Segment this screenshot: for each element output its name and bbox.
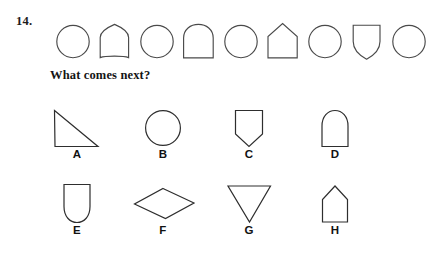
u-shape-icon	[34, 180, 120, 224]
sequence-shape-circle-3	[139, 20, 179, 62]
sequence-shape-round-arch-4	[181, 20, 221, 62]
sequence-shape-shield-8	[349, 20, 389, 62]
option-h[interactable]: H	[292, 180, 378, 242]
sequence-shape-circle-7	[307, 20, 347, 62]
option-e-label: E	[34, 224, 120, 236]
question-prompt: What comes next?	[50, 68, 150, 83]
option-f-label: F	[120, 224, 206, 236]
question-number: 14.	[16, 14, 32, 29]
option-e[interactable]: E	[34, 180, 120, 242]
sequence-shape-house-pentagon-6	[265, 20, 305, 62]
sequence-shape-pointed-arch-2	[97, 20, 137, 62]
circle-icon	[120, 104, 206, 148]
option-f[interactable]: F	[120, 180, 206, 242]
option-b[interactable]: B	[120, 104, 206, 166]
inverted-triangle-icon	[206, 180, 292, 224]
option-d[interactable]: D	[292, 104, 378, 166]
option-b-label: B	[120, 148, 206, 160]
option-a[interactable]: A	[34, 104, 120, 166]
option-c[interactable]: C	[206, 104, 292, 166]
shield-icon	[206, 104, 292, 148]
option-g[interactable]: G	[206, 180, 292, 242]
sequence-shape-circle-9	[391, 20, 431, 62]
round-arch-icon	[292, 104, 378, 148]
sequence-shape-circle-1	[55, 20, 95, 62]
sequence-shape-circle-5	[223, 20, 263, 62]
option-c-label: C	[206, 148, 292, 160]
house-pentagon-icon	[292, 180, 378, 224]
option-h-label: H	[292, 224, 378, 236]
option-a-label: A	[34, 148, 120, 160]
option-d-label: D	[292, 148, 378, 160]
answer-options: A B C D	[0, 104, 440, 256]
option-g-label: G	[206, 224, 292, 236]
triangle-icon	[34, 104, 120, 148]
pattern-sequence	[55, 20, 433, 62]
worksheet-page: 14.	[0, 0, 440, 265]
rhombus-icon	[120, 180, 206, 224]
